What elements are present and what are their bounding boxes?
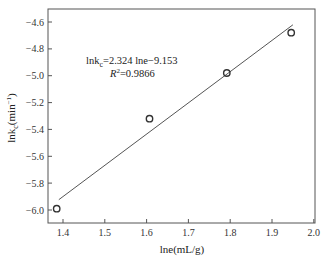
x-tick-label: 1.9 <box>266 227 279 238</box>
data-point <box>146 116 152 122</box>
x-tick-label: 1.4 <box>57 227 70 238</box>
chart: 1.4 1.5 1.6 1.7 1.8 1.9 2.0 −4.6 −4.8 −5… <box>0 0 326 261</box>
r-squared: R2=0.9866 <box>109 67 155 79</box>
y-axis-ticks <box>48 22 52 210</box>
fit-equation: lnkc=2.324 lne−9.153 <box>86 55 178 69</box>
x-axis-title: lne(mL/g) <box>160 243 205 256</box>
y-tick-label: −4.6 <box>26 17 44 28</box>
data-point <box>54 206 60 212</box>
x-axis-tick-labels: 1.4 1.5 1.6 1.7 1.8 1.9 2.0 <box>57 227 320 238</box>
y-axis-tick-labels: −4.6 −4.8 −5.0 −5.2 −5.4 −5.6 −5.8 −6.0 <box>26 17 44 216</box>
fit-line <box>59 25 293 200</box>
y-axis-title: lnkc(min−1) <box>5 93 20 143</box>
y-tick-label: −5.6 <box>26 151 44 162</box>
x-axis-ticks <box>63 219 314 223</box>
y-tick-label: −5.8 <box>26 178 44 189</box>
y-tick-label: −5.4 <box>26 124 44 135</box>
y-tick-label: −6.0 <box>26 205 44 216</box>
y-tick-label: −5.0 <box>26 70 44 81</box>
x-tick-label: 1.6 <box>140 227 153 238</box>
x-tick-label: 1.8 <box>224 227 237 238</box>
x-tick-label: 1.5 <box>99 227 112 238</box>
x-tick-label: 2.0 <box>308 227 321 238</box>
y-tick-label: −4.8 <box>26 43 44 54</box>
data-point <box>288 30 294 36</box>
plot-frame <box>48 9 315 223</box>
x-tick-label: 1.7 <box>182 227 195 238</box>
y-tick-label: −5.2 <box>26 97 44 108</box>
